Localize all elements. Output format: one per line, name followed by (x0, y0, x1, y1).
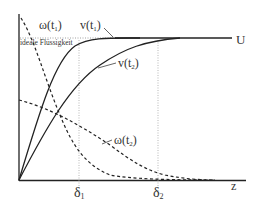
v-t2-curve (19, 38, 180, 180)
u-label: U (236, 32, 246, 47)
z-axis-label: z (231, 179, 236, 193)
boundary-layer-diagram: ω(t1) v(t1) ideale Flüssigkeit v(t2) ω(t… (0, 0, 259, 206)
omega-t1-label: ω(t1) (39, 18, 62, 33)
omega-t2-label: ω(t2) (114, 133, 137, 148)
delta1-label: δ1 (74, 185, 85, 201)
v-t1-label: v(t1) (80, 18, 101, 33)
v-t1-leader (104, 28, 113, 37)
ideal-fluid-label: ideale Flüssigkeit (20, 38, 74, 47)
delta2-label: δ2 (153, 185, 164, 201)
v-t2-label: v(t2) (118, 56, 139, 71)
